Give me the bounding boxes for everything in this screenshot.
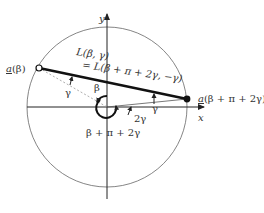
x-axis-label: x [198,112,204,123]
angle-beta: β [94,82,100,93]
radius-solid [107,99,187,107]
two-gamma-arrow [128,107,131,115]
y-axis-label: y [98,13,105,24]
gamma-arrow-left [70,77,72,85]
point-a-beta [36,65,42,71]
angle-gamma-left: γ [65,87,71,98]
point-a-end-label: a(β + π + 2γ) [198,93,264,104]
angle-gamma-right: γ [152,103,158,114]
point-a-end [184,96,191,103]
line-label-1: L(β, γ) [75,46,110,62]
diagram-canvas: y x a(β) a(β + π + 2γ) L(β, γ) = L(β + π… [0,0,264,213]
angle-two-gamma: 2γ [134,113,146,124]
point-a-beta-label: a(β) [6,63,26,74]
angle-big: β + π + 2γ [86,127,140,138]
